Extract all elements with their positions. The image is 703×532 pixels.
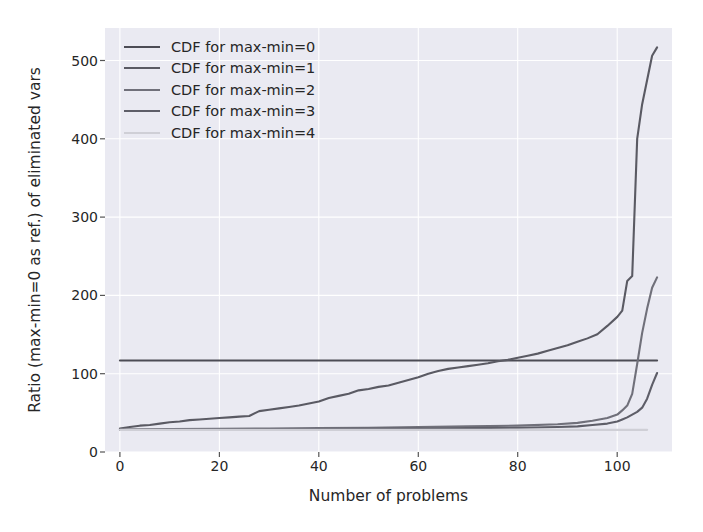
xtick-label-0: 0: [90, 458, 150, 474]
legend-label-1: CDF for max-min=1: [171, 60, 315, 76]
legend: CDF for max-min=0CDF for max-min=1CDF fo…: [124, 36, 315, 144]
series-line-3: [120, 373, 657, 430]
ytick-label-200: 200: [38, 287, 98, 303]
y-axis-label: Ratio (max-min=0 as ref.) of eliminated …: [26, 28, 44, 452]
legend-item-1[interactable]: CDF for max-min=1: [124, 58, 315, 80]
legend-swatch-icon-3: [124, 110, 160, 112]
xtick-label-20: 20: [189, 458, 249, 474]
series-line-2: [120, 277, 657, 429]
legend-label-0: CDF for max-min=0: [171, 39, 315, 55]
legend-swatch-icon-2: [124, 89, 160, 91]
legend-swatch-icon-0: [124, 46, 160, 48]
legend-item-4[interactable]: CDF for max-min=4: [124, 122, 315, 144]
ytick-label-500: 500: [38, 53, 98, 69]
xtick-label-60: 60: [388, 458, 448, 474]
ytick-label-300: 300: [38, 209, 98, 225]
xtick-label-40: 40: [289, 458, 349, 474]
figure: 0 100 200 300 400 500 0 20 40 60 80 100 …: [0, 0, 703, 532]
x-axis-label: Number of problems: [105, 487, 672, 505]
xtick-label-100: 100: [587, 458, 647, 474]
chart-svg: [0, 0, 703, 532]
legend-label-3: CDF for max-min=3: [171, 103, 315, 119]
legend-label-2: CDF for max-min=2: [171, 82, 315, 98]
ytick-label-100: 100: [38, 366, 98, 382]
legend-swatch-icon-4: [124, 132, 160, 134]
ytick-label-400: 400: [38, 131, 98, 147]
legend-label-4: CDF for max-min=4: [171, 125, 315, 141]
xtick-label-80: 80: [488, 458, 548, 474]
legend-item-0[interactable]: CDF for max-min=0: [124, 36, 315, 58]
legend-item-3[interactable]: CDF for max-min=3: [124, 101, 315, 123]
legend-item-2[interactable]: CDF for max-min=2: [124, 79, 315, 101]
legend-swatch-icon-1: [124, 67, 160, 69]
